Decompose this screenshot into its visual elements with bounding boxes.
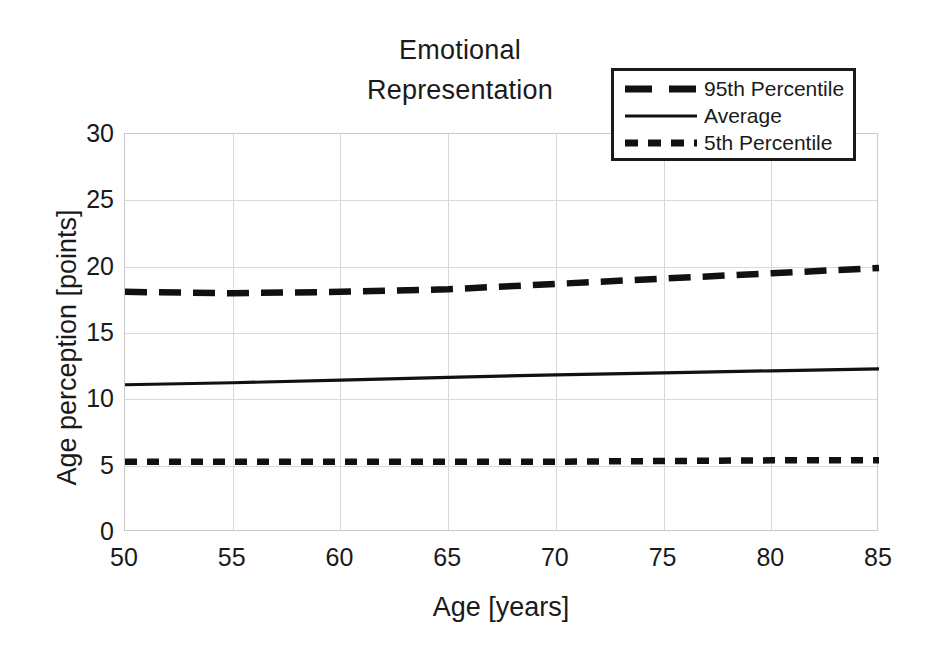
- plot-area: [124, 133, 878, 531]
- chart-figure: Emotional Representation 051015202530 50…: [0, 0, 934, 668]
- series-container: [125, 134, 879, 532]
- x-axis-tick-label: 55: [197, 545, 267, 570]
- series-line-average: [125, 369, 879, 385]
- x-axis-tick-label: 60: [304, 545, 374, 570]
- chart-legend: 95th PercentileAverage5th Percentile: [611, 68, 856, 161]
- legend-label: 95th Percentile: [698, 78, 844, 99]
- legend-item[interactable]: 5th Percentile: [614, 129, 853, 156]
- y-axis-title: Age perception [points]: [52, 148, 83, 548]
- legend-item[interactable]: 95th Percentile: [614, 75, 853, 102]
- legend-label: 5th Percentile: [698, 132, 832, 153]
- x-axis-tick-label: 75: [628, 545, 698, 570]
- y-axis-tick-label: 30: [54, 121, 114, 146]
- x-axis-tick-labels: 5055606570758085: [124, 545, 878, 577]
- chart-title: Emotional Representation: [300, 30, 620, 110]
- x-axis-tick-label: 70: [520, 545, 590, 570]
- x-axis-tick-label: 80: [735, 545, 805, 570]
- legend-swatch-solid-icon: [624, 106, 698, 126]
- x-axis-title: Age [years]: [124, 592, 878, 623]
- legend-label: Average: [698, 105, 782, 126]
- x-axis-tick-label: 50: [89, 545, 159, 570]
- legend-swatch-long-dash-icon: [624, 79, 698, 99]
- x-axis-tick-label: 65: [412, 545, 482, 570]
- legend-swatch-short-dash-icon: [624, 133, 698, 153]
- x-axis-tick-label: 85: [843, 545, 913, 570]
- series-line-95th-percentile: [125, 268, 879, 293]
- legend-item[interactable]: Average: [614, 102, 853, 129]
- series-line-5th-percentile: [125, 460, 879, 461]
